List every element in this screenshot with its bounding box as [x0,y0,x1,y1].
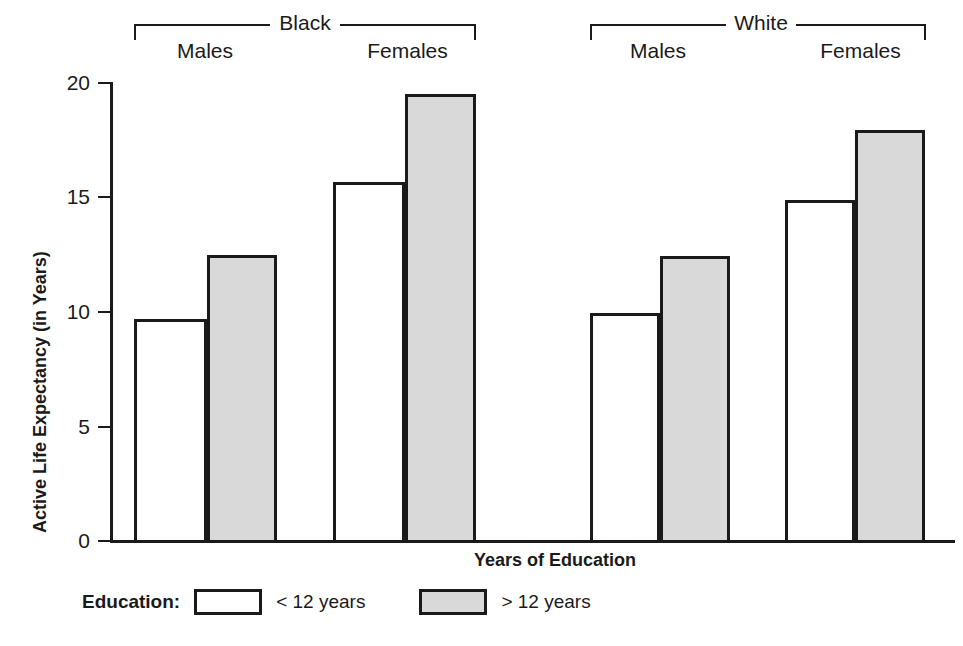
legend: Education: < 12 years > 12 years [82,589,645,615]
group-label-black: Black [270,10,340,36]
y-tick-label-15: 15 [40,186,90,207]
legend-swatch-lt12 [194,589,262,615]
legend-swatch-gt12 [419,589,487,615]
bar-white-females-lt12 [785,200,855,543]
y-tick-20 [98,82,110,84]
bar-black-females-gt12 [405,94,476,543]
bar-white-males-gt12 [660,256,730,543]
bar-black-males-lt12 [134,319,207,543]
bar-white-females-gt12 [855,130,925,543]
group-label-white: White [726,10,796,36]
bracket-tick-left [134,24,136,40]
legend-label-lt12: < 12 years [276,591,365,613]
y-tick-5 [98,426,110,428]
bracket-tick-left [590,24,592,40]
bracket-line-right [340,24,474,26]
bar-white-males-lt12 [590,313,660,544]
legend-label-gt12: > 12 years [501,591,590,613]
subgroup-label-black-females: Females [345,38,470,64]
legend-title: Education: [82,591,180,613]
bar-black-males-gt12 [207,255,277,543]
bar-chart: Black Males Females White Males Females … [0,0,963,646]
bracket-line-right [796,24,924,26]
bracket-line-left [134,24,270,26]
x-axis-title: Years of Education [400,550,710,571]
y-tick-15 [98,196,110,198]
y-tick-0 [98,540,110,542]
y-tick-label-20: 20 [40,72,90,93]
subgroup-label-white-females: Females [798,38,923,64]
subgroup-label-black-males: Males [150,38,260,64]
y-axis-line [110,82,113,543]
subgroup-label-white-males: Males [603,38,713,64]
y-tick-label-0: 0 [40,530,90,551]
group-bracket-black: Black [134,8,476,38]
y-tick-10 [98,311,110,313]
bracket-line-left [590,24,726,26]
group-bracket-white: White [590,8,926,38]
bracket-tick-right [474,24,476,40]
bracket-tick-right [924,24,926,40]
bar-black-females-lt12 [333,182,405,543]
y-axis-title: Active Life Expectancy (in Years) [30,251,51,533]
